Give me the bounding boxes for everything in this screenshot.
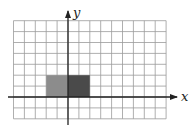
x-axis-label: x <box>181 89 189 104</box>
y-axis-arrow-icon <box>65 10 71 18</box>
y-axis-label: y <box>72 5 81 20</box>
right-rectangle <box>68 75 90 97</box>
left-rectangle <box>46 75 68 97</box>
x-axis-arrow-icon <box>170 94 178 100</box>
coordinate-plane: x y <box>0 0 193 127</box>
grid <box>14 21 167 119</box>
